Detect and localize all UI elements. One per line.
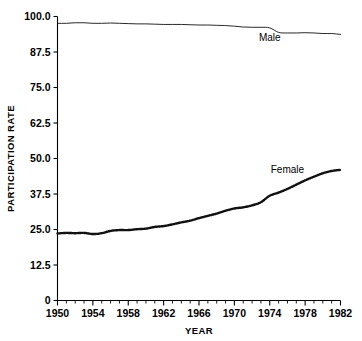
x-tick-label: 1978 [293, 307, 317, 319]
series-female [58, 170, 341, 234]
y-tick-label: 100.0 [24, 10, 50, 22]
y-tick-label: 37.5 [30, 188, 51, 200]
series-label-male: Male [259, 32, 281, 43]
y-tick-label: 75.0 [30, 81, 51, 93]
data-series [58, 23, 341, 234]
y-tick-label: 25.0 [30, 223, 51, 235]
y-tick-label: 87.5 [30, 46, 51, 58]
y-tick-label: 50.0 [30, 152, 51, 164]
x-tick-label: 1962 [152, 307, 176, 319]
y-tick-label: 0 [45, 294, 51, 306]
x-axis-tick-labels: 195019541958196219661970197419781982 [46, 307, 353, 319]
chart-canvas: 012.525.037.550.062.575.087.5100.0 19501… [0, 0, 362, 341]
y-axis-title: PARTICIPATION RATE [5, 105, 16, 212]
y-axis-tick-labels: 012.525.037.550.062.575.087.5100.0 [24, 10, 50, 306]
chart-axes [58, 17, 341, 301]
axis-ticks [54, 17, 341, 306]
y-tick-label: 62.5 [30, 117, 51, 129]
x-tick-label: 1966 [187, 307, 211, 319]
series-male [58, 23, 341, 35]
x-tick-label: 1970 [223, 307, 247, 319]
x-tick-label: 1950 [46, 307, 70, 319]
x-tick-label: 1954 [81, 307, 105, 319]
series-label-female: Female [271, 164, 305, 175]
x-tick-label: 1974 [258, 307, 282, 319]
x-tick-label: 1958 [117, 307, 141, 319]
x-tick-label: 1982 [329, 307, 353, 319]
participation-rate-chart: 012.525.037.550.062.575.087.5100.0 19501… [0, 0, 362, 341]
y-tick-label: 12.5 [30, 259, 51, 271]
series-annotations: MaleFemale [259, 32, 305, 175]
x-axis-title: YEAR [185, 325, 213, 336]
